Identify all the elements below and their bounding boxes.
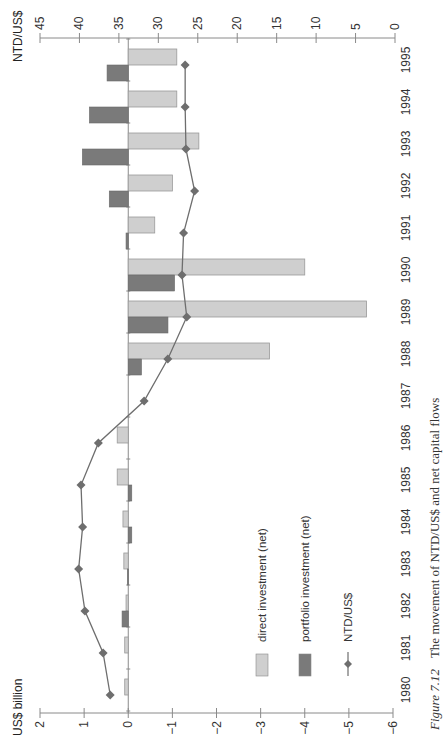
right-axis-tick-label: 45 (33, 16, 47, 30)
legend: direct investment (net)portfolio investm… (256, 515, 354, 676)
year-label: 1984 (399, 508, 413, 535)
left-axis-tick-label: 2 (33, 721, 47, 728)
direct-investment-bar (128, 217, 154, 233)
direct-investment-bar (117, 469, 128, 485)
portfolio-investment-bar (128, 527, 132, 543)
figure-number: Figure 7.12 (427, 669, 442, 731)
portfolio-investment-bar (107, 65, 128, 81)
direct-investment-bar (128, 49, 177, 65)
diamond-marker-icon (181, 61, 190, 70)
left-axis-tick-label: −6 (386, 721, 400, 735)
legend-direct-swatch (256, 654, 268, 676)
portfolio-investment-bar (127, 569, 128, 585)
portfolio-investment-bar (128, 275, 174, 291)
bars (82, 49, 366, 695)
left-axis-tick-label: 0 (121, 721, 135, 728)
direct-investment-bar (128, 301, 366, 317)
year-label: 1989 (399, 298, 413, 325)
portfolio-investment-bar (109, 191, 128, 207)
portfolio-investment-bar (126, 233, 128, 249)
portfolio-investment-bar (82, 149, 128, 165)
right-axis-tick-label: 35 (112, 16, 126, 30)
direct-investment-bar (128, 91, 177, 107)
direct-investment-bar (128, 343, 269, 359)
year-label: 1986 (399, 424, 413, 451)
legend-label: portfolio investment (net) (299, 515, 311, 642)
right-axis-tick-label: 10 (309, 16, 323, 30)
diamond-marker-icon (181, 103, 190, 112)
capital-flows-chart: 210−1−2−3−4−5−64540353025201510501980198… (0, 0, 447, 744)
portfolio-investment-bar (128, 359, 141, 375)
figure-caption-text: The movement of NTD/US$ and net capital … (427, 398, 442, 658)
diamond-marker-icon (190, 187, 199, 196)
direct-investment-bar (125, 679, 129, 695)
year-label: 1983 (399, 550, 413, 577)
year-label: 1991 (399, 214, 413, 241)
figure-caption: Figure 7.12 The movement of NTD/US$ and … (427, 398, 442, 731)
portfolio-investment-bar (128, 485, 132, 501)
diamond-marker-icon (99, 649, 108, 658)
left-axis-tick-label: −2 (210, 721, 224, 735)
legend-label: direct investment (net) (256, 528, 268, 642)
axes: 210−1−2−3−4−5−64540353025201510501980198… (33, 16, 413, 734)
left-axis-tick-label: −5 (342, 721, 356, 735)
direct-investment-bar (128, 259, 305, 275)
year-label: 1985 (399, 466, 413, 493)
legend-label: NTD/US$ (342, 592, 354, 642)
left-axis-tick-label: −1 (165, 721, 179, 735)
portfolio-investment-bar (128, 317, 168, 333)
year-label: 1993 (399, 130, 413, 157)
portfolio-investment-bar (122, 611, 128, 627)
diamond-marker-icon (78, 523, 87, 532)
year-label: 1995 (399, 46, 413, 73)
left-axis-tick-label: 1 (77, 721, 91, 728)
year-label: 1987 (399, 382, 413, 409)
diamond-marker-icon (77, 481, 86, 490)
left-axis-tick-label: −4 (298, 721, 312, 735)
diamond-marker-icon (106, 691, 115, 700)
year-label: 1980 (399, 676, 413, 703)
direct-investment-bar (125, 637, 129, 653)
direct-investment-bar (126, 595, 128, 611)
year-label: 1988 (399, 340, 413, 367)
direct-investment-bar (128, 175, 172, 191)
legend-diamond-icon (344, 660, 352, 668)
left-axis-title: US$ billion (11, 679, 25, 736)
right-axis-tick-label: 5 (349, 23, 363, 30)
diamond-marker-icon (74, 565, 83, 574)
left-axis-tick-label: −3 (254, 721, 268, 735)
diamond-marker-icon (179, 229, 188, 238)
diamond-marker-icon (80, 607, 89, 616)
direct-investment-bar (124, 553, 128, 569)
direct-investment-bar (123, 511, 128, 527)
year-label: 1992 (399, 172, 413, 199)
year-label: 1981 (399, 634, 413, 661)
right-axis-tick-label: 40 (72, 16, 86, 30)
portfolio-investment-bar (89, 107, 128, 123)
direct-investment-bar (117, 427, 128, 443)
right-axis-tick-label: 20 (230, 16, 244, 30)
right-axis-tick-label: 0 (388, 23, 402, 30)
right-axis-title: NTD/US$ (11, 10, 25, 62)
year-label: 1982 (399, 592, 413, 619)
year-label: 1990 (399, 256, 413, 283)
right-axis-tick-label: 25 (191, 16, 205, 30)
rotated-chart-frame: 210−1−2−3−4−5−64540353025201510501980198… (0, 0, 447, 744)
right-axis-tick-label: 30 (151, 16, 165, 30)
year-label: 1994 (399, 88, 413, 115)
direct-investment-bar (128, 133, 199, 149)
legend-portfolio-swatch (299, 654, 311, 676)
right-axis-tick-label: 15 (270, 16, 284, 30)
